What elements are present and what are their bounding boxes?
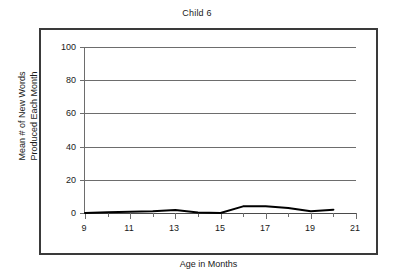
x-tick-17: [266, 213, 267, 219]
x-axis-title: Age in Months: [39, 259, 378, 269]
y-tick-label-20: 20: [42, 176, 76, 185]
x-minor-tick-16: [243, 213, 244, 217]
x-tick-label-13: 13: [161, 224, 187, 233]
plot-area: [84, 47, 355, 213]
data-line-Child 6: [85, 206, 333, 213]
x-minor-tick-18: [288, 213, 289, 217]
x-tick-21: [356, 213, 357, 219]
x-tick-label-15: 15: [207, 224, 233, 233]
x-minor-tick-10: [108, 213, 109, 217]
x-tick-label-17: 17: [252, 224, 278, 233]
x-tick-15: [221, 213, 222, 219]
x-tick-label-21: 21: [342, 224, 368, 233]
chart-title: Child 6: [0, 8, 394, 18]
x-tick-label-11: 11: [116, 224, 142, 233]
x-minor-tick-12: [153, 213, 154, 217]
x-minor-tick-20: [333, 213, 334, 217]
y-tick-label-100: 100: [42, 43, 76, 52]
y-axis-title-line-2: Produced Each Month: [28, 36, 40, 196]
y-tick-label-60: 60: [42, 109, 76, 118]
x-tick-label-9: 9: [71, 224, 97, 233]
x-tick-11: [130, 213, 131, 219]
y-tick-label-40: 40: [42, 143, 76, 152]
chart-figure: Child 6 Mean # of New Words Produced Eac…: [0, 0, 394, 279]
y-tick-label-0: 0: [42, 209, 76, 218]
x-tick-19: [311, 213, 312, 219]
data-series-layer: [85, 47, 356, 213]
x-tick-13: [175, 213, 176, 219]
y-axis-title: Mean # of New Words Produced Each Month: [16, 36, 40, 196]
y-axis-title-line-1: Mean # of New Words: [16, 36, 28, 196]
x-minor-tick-14: [198, 213, 199, 217]
x-tick-label-19: 19: [297, 224, 323, 233]
y-tick-label-80: 80: [42, 76, 76, 85]
